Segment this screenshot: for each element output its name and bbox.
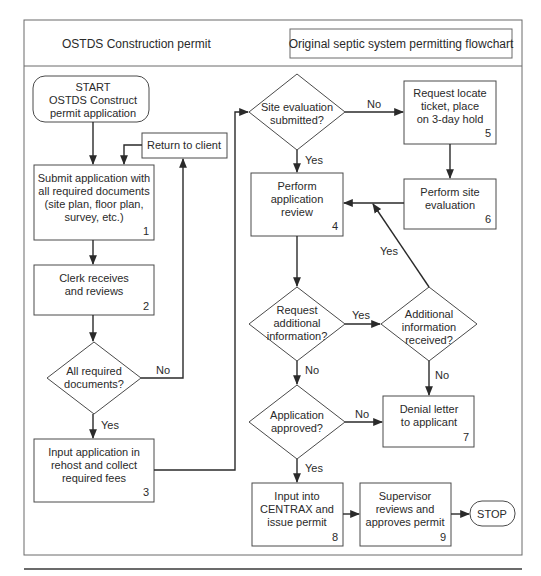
svg-text:1: 1	[143, 225, 149, 237]
svg-text:information?: information?	[267, 330, 328, 342]
node-return-to-client: Return to client	[142, 133, 227, 158]
svg-text:Supervisor: Supervisor	[379, 490, 432, 502]
svg-text:approved?: approved?	[271, 422, 323, 434]
svg-text:3: 3	[143, 486, 149, 498]
svg-text:CENTRAX and: CENTRAX and	[260, 503, 334, 515]
svg-text:approves permit: approves permit	[366, 516, 445, 528]
node-info-received-decision: Additional information received?	[381, 287, 477, 361]
svg-text:received?: received?	[405, 334, 453, 346]
node-perform-site-evaluation: Perform site evaluation 6	[404, 179, 496, 229]
node-submit-application: Submit application with all required doc…	[34, 165, 154, 240]
header-left-title: OSTDS Construction permit	[62, 37, 211, 51]
node-all-documents-decision: All required documents?	[47, 342, 141, 414]
svg-text:Request locate: Request locate	[413, 87, 486, 99]
svg-text:permit application: permit application	[50, 107, 136, 119]
label-request-info-yes: Yes	[352, 309, 370, 321]
svg-text:all required documents: all required documents	[38, 185, 150, 197]
svg-text:Return to client: Return to client	[147, 139, 221, 151]
node-site-evaluation-decision: Site evaluation submitted?	[249, 74, 345, 150]
node-request-locate-ticket: Request locate ticket, place on 3-day ho…	[404, 81, 496, 144]
header-right-title: Original septic system permitting flowch…	[289, 37, 514, 51]
svg-text:STOP: STOP	[477, 508, 507, 520]
svg-text:application: application	[271, 193, 324, 205]
node-stop: STOP	[470, 501, 515, 526]
node-denial-letter: Denial letter to applicant 7	[383, 396, 474, 447]
svg-text:9: 9	[440, 531, 446, 543]
svg-text:4: 4	[332, 220, 338, 232]
svg-text:to applicant: to applicant	[401, 416, 457, 428]
svg-text:survey, etc.): survey, etc.)	[64, 211, 123, 223]
svg-text:rehost and collect: rehost and collect	[51, 459, 137, 471]
svg-text:8: 8	[332, 531, 338, 543]
svg-text:review: review	[281, 206, 313, 218]
label-site-eval-no: No	[367, 98, 381, 110]
node-request-info-decision: Request additional information?	[249, 287, 345, 361]
svg-text:reviews and: reviews and	[376, 503, 435, 515]
label-all-docs-yes: Yes	[101, 419, 119, 431]
svg-text:2: 2	[143, 300, 149, 312]
svg-text:documents?: documents?	[64, 378, 124, 390]
label-site-eval-yes: Yes	[305, 154, 323, 166]
svg-text:ticket, place: ticket, place	[421, 100, 479, 112]
svg-text:START: START	[75, 81, 110, 93]
svg-text:information: information	[402, 321, 456, 333]
node-input-rehost: Input application in rehost and collect …	[34, 439, 154, 502]
svg-text:Input into: Input into	[274, 490, 319, 502]
label-all-docs-no: No	[156, 364, 170, 376]
svg-text:Site evaluation: Site evaluation	[261, 101, 333, 113]
node-clerk-reviews: Clerk receives and reviews 2	[34, 265, 154, 315]
svg-text:(site plan, floor plan,: (site plan, floor plan,	[44, 198, 143, 210]
svg-text:7: 7	[463, 431, 469, 443]
svg-text:required fees: required fees	[62, 472, 127, 484]
flowchart-canvas: OSTDS Construction permit Original septi…	[0, 0, 541, 576]
svg-text:submitted?: submitted?	[270, 114, 324, 126]
svg-text:evaluation: evaluation	[425, 199, 475, 211]
label-request-info-no: No	[305, 364, 319, 376]
node-input-centrax: Input into CENTRAX and issue permit 8	[252, 483, 343, 546]
node-perform-application-review: Perform application review 4	[251, 173, 343, 236]
svg-text:and reviews: and reviews	[65, 285, 124, 297]
svg-text:Perform site: Perform site	[420, 186, 479, 198]
node-start: START OSTDS Construct permit application	[33, 76, 149, 122]
label-approved-yes: Yes	[305, 462, 323, 474]
label-approved-no: No	[355, 408, 369, 420]
svg-text:Additional: Additional	[405, 308, 453, 320]
label-info-received-no: No	[435, 369, 449, 381]
svg-text:Submit application with: Submit application with	[38, 172, 151, 184]
label-info-received-yes: Yes	[380, 245, 398, 257]
svg-text:Perform: Perform	[277, 180, 316, 192]
node-supervisor-approves: Supervisor reviews and approves permit 9	[360, 483, 451, 546]
svg-text:All required: All required	[66, 365, 122, 377]
svg-text:Input application in: Input application in	[48, 446, 140, 458]
svg-text:Application: Application	[270, 409, 324, 421]
svg-text:Clerk receives: Clerk receives	[59, 272, 129, 284]
svg-text:on 3-day hold: on 3-day hold	[417, 113, 484, 125]
svg-text:Request: Request	[277, 304, 318, 316]
svg-text:5: 5	[485, 127, 491, 139]
svg-text:issue permit: issue permit	[267, 516, 326, 528]
svg-text:additional: additional	[273, 317, 320, 329]
svg-text:OSTDS Construct: OSTDS Construct	[49, 94, 137, 106]
svg-text:6: 6	[485, 213, 491, 225]
svg-text:Denial letter: Denial letter	[400, 403, 459, 415]
node-application-approved-decision: Application approved?	[249, 385, 345, 459]
